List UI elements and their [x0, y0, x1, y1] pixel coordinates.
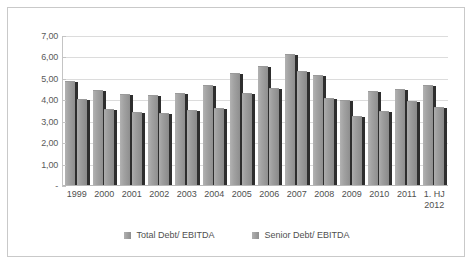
bar-shadow: [224, 109, 227, 186]
x-axis-tick-label: 1999: [63, 189, 91, 200]
y-axis-tick: [62, 57, 66, 58]
bar-group: [366, 36, 394, 186]
x-axis-line: [63, 185, 448, 186]
bar-shadow: [389, 112, 392, 186]
bar-senior-debt[interactable]: [77, 99, 87, 186]
bar-group: [228, 36, 256, 186]
x-axis-labels: 1999200020012002200320042005200620072008…: [63, 189, 448, 223]
x-axis-tick-label: 2011: [393, 189, 421, 200]
bar-shadow: [444, 108, 447, 186]
y-axis-tick-label: 5,00: [41, 74, 58, 84]
bar-senior-debt[interactable]: [159, 113, 169, 186]
bar-group: [91, 36, 119, 186]
plot-area: [63, 36, 448, 186]
bar-shadow: [197, 111, 200, 186]
bar-group: [393, 36, 421, 186]
x-axis-tick-label: 2003: [173, 189, 201, 200]
bar-shadow: [114, 110, 117, 186]
bar-senior-debt[interactable]: [324, 98, 334, 186]
bar-total-debt[interactable]: [175, 93, 185, 186]
legend-swatch-icon: [124, 232, 131, 239]
x-axis-tick-label: 2006: [256, 189, 284, 200]
legend-item[interactable]: Total Debt/ EBITDA: [124, 230, 214, 240]
bar-group: [421, 36, 449, 186]
bar-total-debt[interactable]: [285, 54, 295, 186]
bar-senior-debt[interactable]: [187, 110, 197, 186]
y-axis-tick: [62, 143, 66, 144]
y-axis-tick: [62, 122, 66, 123]
bar-senior-debt[interactable]: [242, 93, 252, 186]
bar-senior-debt[interactable]: [104, 109, 114, 186]
bar-total-debt[interactable]: [120, 94, 130, 186]
bar-total-debt[interactable]: [65, 81, 75, 186]
bar-total-debt[interactable]: [340, 100, 350, 186]
y-axis-labels: 7,006,005,004,003,002,001,00-: [20, 36, 62, 186]
y-axis-tick: [62, 79, 66, 80]
y-axis-tick: [62, 36, 66, 37]
bar-senior-debt[interactable]: [407, 101, 417, 186]
y-axis-tick-label: 1,00: [41, 160, 58, 170]
legend-item[interactable]: Senior Debt/ EBITDA: [252, 230, 349, 240]
bar-senior-debt[interactable]: [214, 108, 224, 186]
x-axis-tick-label: 2007: [283, 189, 311, 200]
y-axis-tick-label: 2,00: [41, 138, 58, 148]
bar-senior-debt[interactable]: [379, 111, 389, 186]
bar-shadow: [417, 102, 420, 186]
bar-total-debt[interactable]: [313, 75, 323, 186]
bar-total-debt[interactable]: [423, 85, 433, 186]
bar-group: [283, 36, 311, 186]
bar-senior-debt[interactable]: [434, 107, 444, 186]
bar-group: [173, 36, 201, 186]
x-axis-tick-label: 2010: [366, 189, 394, 200]
x-axis-tick-label: 1. HJ 2012: [421, 189, 449, 211]
bar-total-debt[interactable]: [148, 95, 158, 186]
bar-shadow: [307, 72, 310, 186]
legend-swatch-icon: [252, 232, 259, 239]
y-axis-tick: [62, 100, 66, 101]
y-axis-tick: [62, 165, 66, 166]
x-axis-tick-label: 2005: [228, 189, 256, 200]
legend-label: Total Debt/ EBITDA: [136, 230, 214, 240]
chart-container: 7,006,005,004,003,002,001,00- 1999200020…: [7, 7, 465, 257]
y-axis-tick-label: 4,00: [41, 95, 58, 105]
x-axis-tick-label: 2001: [118, 189, 146, 200]
bar-total-debt[interactable]: [93, 90, 103, 186]
bar-senior-debt[interactable]: [269, 88, 279, 187]
bar-total-debt[interactable]: [230, 73, 240, 187]
x-axis-tick-label: 2000: [91, 189, 119, 200]
bar-total-debt[interactable]: [203, 85, 213, 186]
y-axis-tick-label: 3,00: [41, 117, 58, 127]
bar-group: [146, 36, 174, 186]
bar-group: [338, 36, 366, 186]
bar-senior-debt[interactable]: [297, 71, 307, 186]
bar-group: [311, 36, 339, 186]
y-axis-tick: [62, 186, 66, 187]
bar-series-group: [63, 36, 448, 186]
bar-senior-debt[interactable]: [352, 116, 362, 186]
bar-total-debt[interactable]: [258, 66, 268, 186]
bar-group: [118, 36, 146, 186]
bar-shadow: [362, 117, 365, 186]
bar-shadow: [169, 114, 172, 186]
bar-shadow: [252, 94, 255, 186]
y-axis-tick-label: 7,00: [41, 31, 58, 41]
x-axis-tick-label: 2008: [311, 189, 339, 200]
bar-group: [63, 36, 91, 186]
bar-shadow: [279, 89, 282, 187]
bar-shadow: [334, 99, 337, 186]
bar-senior-debt[interactable]: [132, 112, 142, 186]
bar-shadow: [142, 113, 145, 186]
x-axis-tick-label: 2004: [201, 189, 229, 200]
bar-group: [256, 36, 284, 186]
x-axis-tick-label: 2002: [146, 189, 174, 200]
legend-label: Senior Debt/ EBITDA: [264, 230, 349, 240]
bar-group: [201, 36, 229, 186]
bar-total-debt[interactable]: [368, 91, 378, 186]
x-axis-tick-label: 2009: [338, 189, 366, 200]
bar-total-debt[interactable]: [395, 89, 405, 186]
bar-shadow: [87, 100, 90, 186]
y-axis-tick-label: 6,00: [41, 52, 58, 62]
chart-legend: Total Debt/ EBITDASenior Debt/ EBITDA: [8, 230, 466, 240]
y-axis-tick-label: -: [55, 181, 58, 191]
